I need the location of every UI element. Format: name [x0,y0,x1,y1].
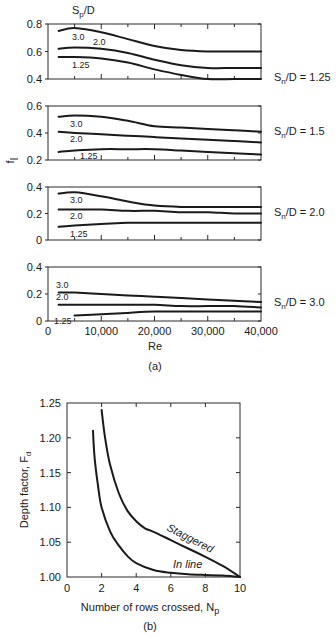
curve-label: 1.25 [70,229,88,239]
figure-b-ylabel: Depth factor, Fd [18,452,33,529]
y-tick-label: 1.10 [40,501,61,513]
sp-d-header: Sp/D [72,4,95,19]
y-tick-label: 0.4 [27,261,42,273]
y-tick-label: 0.8 [27,18,42,30]
x-tick-label: 4 [133,582,139,594]
curve-sp-d-3-0 [59,293,261,303]
curve-label: 2.0 [70,211,83,221]
figure-canvas: Sp/D 0.80.60.43.02.01.25Sn/D = 1.250.60.… [0,0,336,638]
figure-a-ylabel: f [4,159,18,164]
figure-a-xlabel: Re [148,340,162,352]
curve-label: 2.0 [70,134,83,144]
curve-sp-d-3-0 [59,192,261,207]
panel-sn-d-4: 0.40.203.02.01.25Sn/D = 3.0 [27,261,325,327]
y-tick-label: 0.4 [27,73,42,85]
figure-a-panels: 0.80.60.43.02.01.25Sn/D = 1.250.60.40.23… [27,18,331,327]
y-tick-label: 0.4 [27,181,42,193]
x-tick-label: 0 [64,582,70,594]
curve-staggered [102,410,240,577]
y-tick-label: 1.05 [40,536,61,548]
panel-sn-d-1: 0.80.60.43.02.01.25Sn/D = 1.25 [27,18,331,86]
curve-sp-d-2-0 [59,209,261,213]
figure-b-panel: 02468101.001.051.101.151.201.25Staggered… [40,397,247,594]
curve-sp-d-2-0 [59,132,261,143]
figure-a-caption: (a) [148,360,161,372]
panel-sn-d-3: 0.40.203.02.01.25Sn/D = 2.0 [27,181,325,246]
curve-label: 1.25 [72,60,90,70]
sn-d-panel-label: Sn/D = 2.0 [274,206,325,221]
x-tick-label: 40,000 [244,325,278,337]
x-tick-label: 2 [99,582,105,594]
y-tick-label: 0 [36,315,42,327]
y-tick-label: 1.15 [40,467,61,479]
x-tick-label: 6 [168,582,174,594]
curve-label: 3.0 [70,195,83,205]
curve-label: 3.0 [72,32,85,42]
curve-sp-d-1-25 [75,311,261,315]
x-tick-label: 10,000 [84,325,118,337]
figure-b-xlabel: Number of rows crossed, Np [81,601,219,616]
y-tick-label: 0.2 [27,154,42,166]
sn-d-panel-label: Sn/D = 3.0 [274,296,325,311]
y-tick-label: 0.4 [27,127,42,139]
curve-label: 2.0 [93,37,106,47]
svg-text:f: f [4,160,16,164]
curve-label: 3.0 [70,119,83,129]
y-tick-label: 0.6 [27,46,42,58]
curve-label: 3.0 [56,280,69,290]
x-tick-label: 0 [45,325,51,337]
curve-sp-d-1-25 [59,223,261,227]
panel-sn-d-2: 0.60.40.23.02.01.25Sn/D = 1.5 [27,100,325,166]
curve-label: 1.25 [80,151,98,161]
y-tick-label: 1.25 [40,397,61,409]
y-tick-label: 1.00 [40,571,61,583]
sn-d-panel-label: Sn/D = 1.25 [274,71,331,86]
x-tick-label: 30,000 [191,325,225,337]
y-tick-label: 0 [36,234,42,246]
svg-text:Depth factor, Fd: Depth factor, Fd [18,452,33,529]
sn-d-panel-label: Sn/D = 1.5 [274,125,325,140]
x-tick-label: 20,000 [138,325,172,337]
y-tick-label: 0.6 [27,100,42,112]
y-tick-label: 0.2 [27,208,42,220]
curve-sp-d-2-0 [59,305,261,308]
curve-label: 2.0 [56,292,69,302]
figure-a-x-ticks: 010,00020,00030,00040,000 [45,325,278,337]
y-tick-label: 0.2 [27,288,42,300]
x-tick-label: 10 [234,582,246,594]
curve-in-line [93,431,240,577]
y-tick-label: 1.20 [40,432,61,444]
curve-label: 1.25 [54,316,72,326]
inline-label: In line [173,558,202,570]
figure-b-caption: (b) [143,620,156,632]
x-tick-label: 8 [202,582,208,594]
curve-sp-d-3-0 [59,115,261,131]
